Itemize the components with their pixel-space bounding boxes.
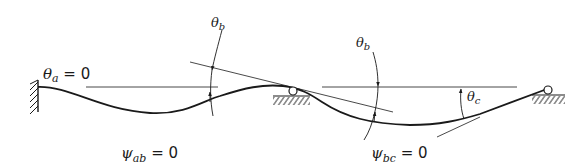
fixed-wall-support-a	[30, 80, 38, 114]
theta-c-angle-arrow	[461, 89, 464, 119]
roller-support-b	[273, 87, 310, 105]
psi-bc-label: ψbc = 0	[371, 144, 428, 164]
theta-a-label: θa = 0	[43, 65, 90, 85]
beam-diagram: θa = 0 θb θb θc ψab = 0 ψbc = 0	[0, 0, 583, 164]
roller-support-c	[532, 86, 565, 104]
theta-b-left-angle-arc	[210, 30, 222, 116]
theta-b-right-label: θb	[356, 35, 370, 52]
psi-ab-label: ψab = 0	[121, 144, 178, 164]
theta-b-left-label: θb	[211, 15, 225, 32]
theta-b-right-angle-arc	[364, 52, 378, 140]
theta-c-label: θc	[467, 89, 481, 106]
